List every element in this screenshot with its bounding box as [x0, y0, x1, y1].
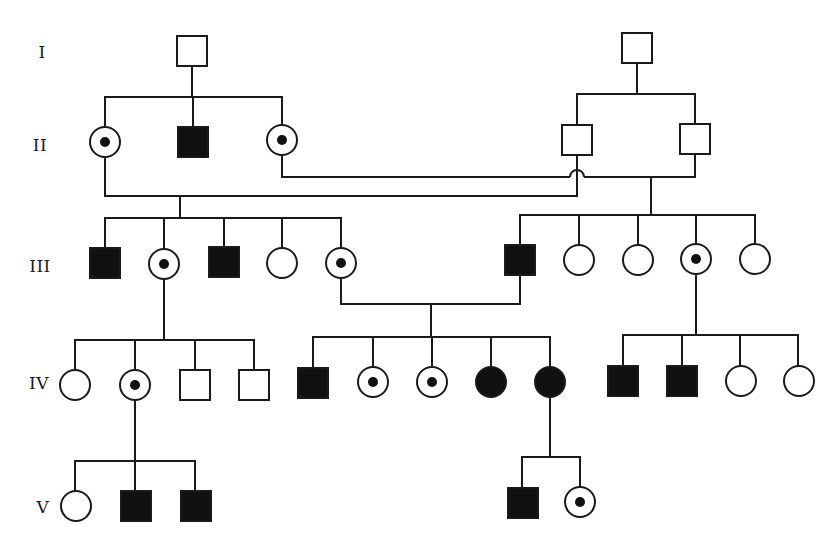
carrier-dot-icon	[130, 380, 140, 390]
individual-iv-12	[726, 366, 756, 396]
individual-ii-5	[680, 124, 710, 154]
pedigree-line	[522, 457, 580, 488]
male-square-icon	[622, 33, 652, 63]
generation-label-3: III	[29, 256, 51, 276]
male-square-icon	[181, 491, 211, 521]
generation-label-4: IV	[29, 373, 49, 393]
individual-ii-2	[178, 127, 208, 157]
carrier-dot-icon	[336, 258, 346, 268]
individual-iii-9	[681, 244, 711, 274]
male-square-icon	[209, 247, 239, 277]
female-circle-icon	[564, 245, 594, 275]
pedigree-line	[105, 155, 577, 196]
male-square-icon	[180, 370, 210, 400]
individual-iv-3	[180, 370, 210, 400]
individual-iii-4	[267, 248, 297, 278]
individual-iii-3	[209, 247, 239, 277]
individual-iii-2	[149, 249, 179, 279]
female-circle-icon	[476, 367, 506, 397]
male-square-icon	[505, 245, 535, 275]
pedigree-individuals	[60, 33, 814, 521]
individual-iv-7	[417, 367, 447, 397]
individual-iii-10	[740, 244, 770, 274]
individual-iii-5	[326, 248, 356, 278]
individual-ii-1	[90, 127, 120, 157]
male-square-icon	[667, 366, 697, 396]
pedigree-line	[584, 154, 695, 177]
generation-label-2: II	[33, 135, 47, 155]
individual-v-1	[61, 491, 91, 521]
pedigree-line	[282, 155, 570, 177]
carrier-dot-icon	[277, 135, 287, 145]
male-square-icon	[608, 366, 638, 396]
individual-v-3	[181, 491, 211, 521]
male-square-icon	[177, 36, 207, 66]
individual-iii-8	[623, 245, 653, 275]
male-square-icon	[508, 488, 538, 518]
male-square-icon	[562, 125, 592, 155]
individual-iv-11	[667, 366, 697, 396]
individual-ii-3	[267, 125, 297, 155]
individual-iv-2	[120, 370, 150, 400]
individual-i-1	[177, 36, 207, 66]
pedigree-chart	[0, 0, 838, 556]
individual-iii-7	[564, 245, 594, 275]
individual-v-2	[121, 491, 151, 521]
male-square-icon	[178, 127, 208, 157]
carrier-dot-icon	[368, 377, 378, 387]
male-square-icon	[90, 248, 120, 278]
carrier-dot-icon	[427, 377, 437, 387]
individual-iv-5	[298, 368, 328, 398]
individual-iv-6	[358, 367, 388, 397]
pedigree-line	[577, 94, 695, 125]
male-square-icon	[239, 370, 269, 400]
individual-iv-8	[476, 367, 506, 397]
female-circle-icon	[60, 370, 90, 400]
generation-label-5: V	[37, 497, 50, 517]
female-circle-icon	[784, 366, 814, 396]
carrier-dot-icon	[100, 137, 110, 147]
male-square-icon	[121, 491, 151, 521]
individual-iv-13	[784, 366, 814, 396]
pedigree-line	[75, 340, 254, 370]
female-circle-icon	[535, 367, 565, 397]
carrier-dot-icon	[575, 497, 585, 507]
individual-iii-1	[90, 248, 120, 278]
individual-iii-6	[505, 245, 535, 275]
female-circle-icon	[740, 244, 770, 274]
individual-iv-1	[60, 370, 90, 400]
female-circle-icon	[267, 248, 297, 278]
individual-ii-4	[562, 125, 592, 155]
female-circle-icon	[623, 245, 653, 275]
female-circle-icon	[61, 491, 91, 521]
male-square-icon	[680, 124, 710, 154]
carrier-dot-icon	[159, 259, 169, 269]
female-circle-icon	[726, 366, 756, 396]
individual-v-5	[565, 487, 595, 517]
carrier-dot-icon	[691, 254, 701, 264]
pedigree-line	[341, 275, 520, 304]
individual-iv-10	[608, 366, 638, 396]
male-square-icon	[298, 368, 328, 398]
individual-i-2	[622, 33, 652, 63]
individual-v-4	[508, 488, 538, 518]
individual-iv-4	[239, 370, 269, 400]
pedigree-line	[623, 335, 798, 366]
individual-iv-9	[535, 367, 565, 397]
generation-label-1: I	[38, 42, 45, 62]
